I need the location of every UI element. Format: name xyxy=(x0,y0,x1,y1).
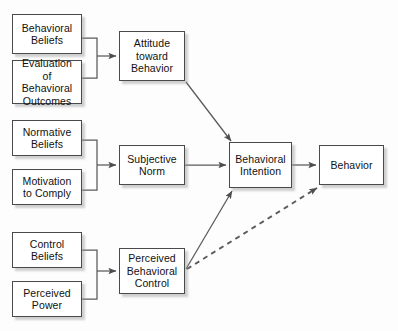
node-label-line1: Behavioral xyxy=(232,153,289,166)
node-label-line2: Behavioral xyxy=(124,265,181,278)
node-label-line1: Evaluation of xyxy=(16,57,78,82)
node-label-line2: Power xyxy=(20,299,74,312)
edge-perceived-power-to-pbc xyxy=(82,271,97,299)
edge-pbc-to-intention xyxy=(186,191,232,269)
node-label-line1: Attitude xyxy=(128,37,176,50)
node-motivation-to-comply[interactable]: Motivation to Comply xyxy=(12,169,82,205)
edge-evaluation-to-attitude xyxy=(82,56,97,78)
node-label-line2: Intention xyxy=(232,165,289,178)
edge-motivation-to-subjective-norm xyxy=(82,165,97,190)
edge-normative-beliefs-to-subjective-norm xyxy=(82,140,97,165)
node-normative-beliefs[interactable]: Normative Beliefs xyxy=(12,120,82,156)
node-perceived-behavioral-control[interactable]: Perceived Behavioral Control xyxy=(119,248,185,294)
node-label-line2: Norm xyxy=(124,165,179,178)
node-label-line2: Beliefs xyxy=(19,34,76,47)
node-label-line3: Outcomes xyxy=(16,95,78,108)
edge-attitude-to-intention xyxy=(186,82,231,141)
node-behavior[interactable]: Behavior xyxy=(319,145,384,185)
node-label-line1: Normative xyxy=(20,126,75,139)
node-perceived-power[interactable]: Perceived Power xyxy=(12,281,82,317)
node-behavioral-intention[interactable]: Behavioral Intention xyxy=(229,142,292,188)
edge-control-beliefs-to-pbc xyxy=(82,250,97,271)
edge-pbc-to-behavior-dashed xyxy=(187,188,317,269)
node-label-line1: Perceived xyxy=(124,252,181,265)
node-label-line1: Perceived xyxy=(20,287,74,300)
node-label-line2: Behavioral xyxy=(16,82,78,95)
node-label-line3: Behavior xyxy=(128,62,176,75)
node-label-line1: Control xyxy=(27,238,68,251)
node-behavioral-beliefs[interactable]: Behavioral Beliefs xyxy=(12,14,82,54)
node-label-line1: Behavioral xyxy=(19,22,76,35)
node-label-line2: Beliefs xyxy=(20,138,75,151)
node-attitude-toward-behavior[interactable]: Attitude toward Behavior xyxy=(119,31,185,81)
node-label-line1: Subjective xyxy=(124,153,179,166)
diagram-canvas: Behavioral Beliefs Evaluation of Behavio… xyxy=(0,0,398,331)
node-label-line1: Motivation xyxy=(20,175,75,188)
node-evaluation-of-behavioral-outcomes[interactable]: Evaluation of Behavioral Outcomes xyxy=(12,60,82,104)
node-control-beliefs[interactable]: Control Beliefs xyxy=(12,232,82,268)
node-label-line1: Behavior xyxy=(327,159,375,172)
node-label-line2: Beliefs xyxy=(27,250,68,263)
edge-behavioral-beliefs-to-attitude xyxy=(82,38,97,56)
node-label-line2: toward xyxy=(128,50,176,63)
node-label-line3: Control xyxy=(124,277,181,290)
node-label-line2: to Comply xyxy=(20,187,75,200)
node-subjective-norm[interactable]: Subjective Norm xyxy=(119,145,185,185)
